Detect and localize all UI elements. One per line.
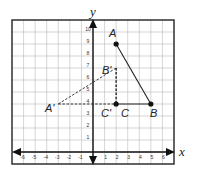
label-a: A bbox=[108, 27, 116, 39]
svg-text:-1: -1 bbox=[78, 154, 83, 160]
label-b-prime: B' bbox=[102, 64, 112, 76]
point-a bbox=[114, 41, 119, 46]
svg-text:4: 4 bbox=[87, 98, 90, 104]
svg-text:3: 3 bbox=[127, 154, 130, 160]
label-c: C bbox=[121, 107, 129, 119]
svg-text:-3: -3 bbox=[55, 154, 60, 160]
svg-text:4: 4 bbox=[139, 154, 142, 160]
coordinate-plane: x y -6-5-4-3-2-1123456 12345678910 A B C… bbox=[0, 0, 197, 185]
segment-a-b bbox=[116, 44, 151, 104]
point-c bbox=[114, 101, 119, 106]
svg-text:5: 5 bbox=[150, 154, 153, 160]
svg-text:9: 9 bbox=[87, 38, 90, 44]
svg-text:6: 6 bbox=[87, 74, 90, 80]
svg-text:-6: -6 bbox=[20, 154, 25, 160]
label-b: B bbox=[150, 107, 157, 119]
svg-text:1: 1 bbox=[104, 154, 107, 160]
svg-text:-4: -4 bbox=[43, 154, 48, 160]
svg-text:2: 2 bbox=[87, 122, 90, 128]
svg-text:8: 8 bbox=[87, 50, 90, 56]
label-a-prime: A' bbox=[44, 102, 55, 114]
y-axis-label: y bbox=[88, 4, 96, 19]
svg-text:2: 2 bbox=[116, 154, 119, 160]
label-c-prime: C' bbox=[101, 107, 112, 119]
svg-text:3: 3 bbox=[87, 110, 90, 116]
y-tick-labels: 12345678910 bbox=[85, 26, 91, 140]
original-triangle bbox=[116, 44, 151, 104]
svg-text:10: 10 bbox=[85, 26, 91, 32]
svg-text:-2: -2 bbox=[67, 154, 72, 160]
svg-text:6: 6 bbox=[162, 154, 165, 160]
point-b bbox=[148, 101, 153, 106]
svg-text:-5: -5 bbox=[32, 154, 37, 160]
svg-text:1: 1 bbox=[87, 134, 90, 140]
svg-text:7: 7 bbox=[87, 62, 90, 68]
x-axis-label: x bbox=[178, 144, 185, 159]
